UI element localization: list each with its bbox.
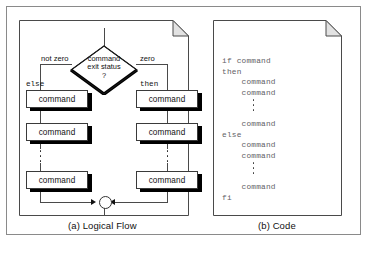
flow-right-connector-2b [167, 163, 168, 171]
flow-left-merge-horizontal [40, 202, 93, 203]
figure-root: command exit status ? not zero zero else… [0, 0, 368, 256]
flow-right-command-box-1: command [136, 90, 198, 108]
flow-left-connector-2b [40, 163, 41, 171]
flow-left-ellipsis [39, 150, 42, 162]
flow-right-command-box-2: command [136, 123, 198, 141]
caption-code: (b) Code [258, 220, 296, 231]
ellipsis-dot [253, 99, 255, 101]
ellipsis-dot [40, 160, 42, 162]
flow-right-command-box-3: command [136, 171, 198, 189]
ellipsis-dot [253, 167, 255, 169]
flow-right-merge-horizontal [115, 202, 168, 203]
decision-diamond: command exit status ? [70, 45, 138, 95]
ellipsis-dot [253, 109, 255, 111]
caption-logical-flow: (a) Logical Flow [68, 220, 137, 231]
code-text-top: if command then command command [222, 56, 276, 98]
ellipsis-dot [253, 162, 255, 164]
code-text-bottom: command fi [222, 182, 276, 203]
code-text-mid: command else command command [222, 119, 276, 161]
ellipsis-dot [167, 150, 169, 152]
ellipsis-dot [167, 160, 169, 162]
edge-label-not-zero: not zero [40, 54, 69, 63]
flow-right-edge-horizontal [136, 64, 168, 65]
flow-merge-node [99, 196, 112, 209]
edge-label-zero: zero [139, 54, 156, 63]
ellipsis-dot [167, 155, 169, 157]
flow-left-merge-arrow [91, 199, 96, 205]
branch-label-else: else [26, 80, 44, 88]
branch-label-then: then [140, 80, 158, 88]
code-ellipsis-2 [252, 162, 255, 174]
decision-line-3: ? [70, 72, 138, 80]
ellipsis-dot [40, 150, 42, 152]
flow-right-ellipsis [166, 150, 169, 162]
flow-left-edge-horizontal [40, 64, 72, 65]
flow-right-edge-vertical [167, 64, 168, 90]
flow-left-command-box-2: command [26, 123, 88, 141]
ellipsis-dot [40, 155, 42, 157]
code-ellipsis-1 [252, 99, 255, 111]
ellipsis-dot [253, 104, 255, 106]
ellipsis-dot [253, 172, 255, 174]
flow-left-command-box-3: command [26, 171, 88, 189]
